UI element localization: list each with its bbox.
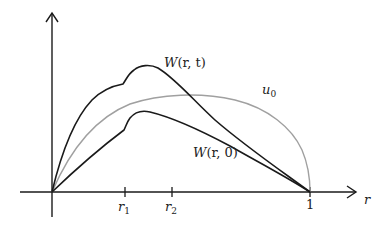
label-u0-sub: 0 bbox=[270, 89, 276, 99]
label-W-r-0-prefix: W bbox=[193, 145, 206, 160]
label-W-r-t: W(r, t) bbox=[164, 55, 206, 70]
tick-label-1: 1 bbox=[306, 197, 314, 212]
x-axis-label: r bbox=[364, 192, 370, 207]
curve-W-r-0 bbox=[52, 111, 310, 192]
diagram-canvas bbox=[0, 0, 381, 225]
tick-label-r1: r1 bbox=[118, 199, 130, 216]
label-u0: u0 bbox=[262, 82, 276, 99]
tick-label-1-name: 1 bbox=[306, 197, 314, 212]
label-W-r-t-args: (r, t) bbox=[177, 55, 205, 70]
tick-label-r2: r2 bbox=[165, 199, 177, 216]
curve-u0 bbox=[52, 95, 310, 192]
x-axis-label-text: r bbox=[364, 192, 370, 207]
label-W-r-t-prefix: W bbox=[164, 55, 177, 70]
tick-label-r2-sub: 2 bbox=[171, 206, 177, 216]
label-W-r-0: W(r, 0) bbox=[193, 145, 238, 160]
tick-label-r1-sub: 1 bbox=[124, 206, 130, 216]
label-W-r-0-args: (r, 0) bbox=[206, 145, 237, 160]
